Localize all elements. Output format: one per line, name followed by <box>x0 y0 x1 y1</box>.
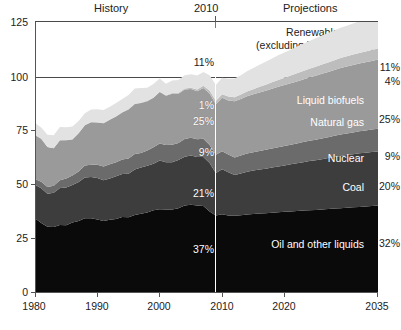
history-label: History <box>94 2 128 14</box>
x-tick-1990: 1990 <box>74 300 120 312</box>
y-tick-25: 25 <box>2 232 28 244</box>
series-label-natural-gas: Natural gas <box>238 116 364 128</box>
mid-pct-renewables: 11% <box>180 56 214 68</box>
mid-pct-nuclear: 9% <box>180 146 214 158</box>
projection-divider-line <box>215 22 217 292</box>
right-pct-natural-gas: 25% <box>370 113 400 125</box>
x-tickmark-2020 <box>284 292 285 297</box>
y-tick-50: 50 <box>2 178 28 190</box>
mid-pct-natural-gas: 25% <box>180 115 214 127</box>
series-label-liquid-biofuels: Liquid biofuels <box>238 94 364 106</box>
series-label-coal: Coal <box>238 181 364 193</box>
x-tick-1980: 1980 <box>11 300 57 312</box>
x-tickmark-2035 <box>377 292 378 297</box>
projections-label: Projections <box>283 2 337 14</box>
x-tickmark-1980 <box>35 292 36 297</box>
x-tickmark-1990 <box>97 292 98 297</box>
mid-pct-liquid-biofuels: 1% <box>180 99 214 111</box>
right-pct-coal: 20% <box>370 180 400 192</box>
mid-pct-coal: 21% <box>180 187 214 199</box>
right-pct-oil-and-other-liquids: 32% <box>370 237 400 249</box>
divider-year-label: 2010 <box>194 2 218 14</box>
x-tickmark-2000 <box>159 292 160 297</box>
y-tick-100: 100 <box>2 71 28 83</box>
series-label-nuclear: Nuclear <box>238 152 364 164</box>
right-pct-liquid-biofuels: 4% <box>370 75 400 87</box>
x-tick-2000: 2000 <box>136 300 182 312</box>
energy-consumption-chart: History 2010 Projections Renewables (exc… <box>0 0 401 330</box>
x-tick-2020: 2020 <box>261 300 307 312</box>
y-tick-0: 0 <box>2 286 28 298</box>
right-pct-nuclear: 9% <box>370 150 400 162</box>
projection-divider-stub <box>215 22 216 28</box>
series-label-oil-and-other-liquids: Oil and other liquids <box>224 238 364 250</box>
x-tickmark-2010 <box>222 292 223 297</box>
mid-pct-oil-and-other-liquids: 37% <box>180 243 214 255</box>
x-tick-2035: 2035 <box>354 300 400 312</box>
right-pct-renewables: 11% <box>370 61 400 73</box>
x-tick-2010: 2010 <box>199 300 245 312</box>
x-axis-line <box>35 292 378 293</box>
y-axis-line <box>35 22 36 293</box>
y-tick-125: 125 <box>2 16 28 28</box>
y-tick-75: 75 <box>2 124 28 136</box>
